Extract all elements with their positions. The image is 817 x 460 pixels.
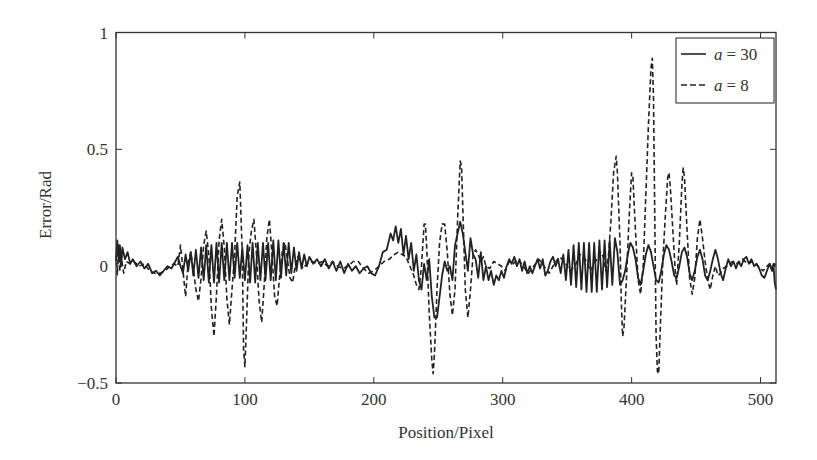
y-tick-label: −0.5 — [77, 374, 108, 393]
x-tick-label: 0 — [112, 390, 121, 409]
x-tick-label: 100 — [232, 390, 258, 409]
y-tick-label: 0 — [100, 257, 109, 276]
legend-item-a8: a= 8 — [714, 76, 749, 95]
x-tick-label: 400 — [619, 390, 645, 409]
y-axis-label: Error/Rad — [36, 171, 55, 239]
legend-box — [676, 38, 774, 103]
y-tick-label: 0.5 — [87, 140, 108, 159]
x-axis-label: Position/Pixel — [398, 423, 494, 442]
x-tick-label: 300 — [490, 390, 516, 409]
x-tick-label: 500 — [748, 390, 774, 409]
x-tick-label: 200 — [361, 390, 387, 409]
line-chart: 0100200300400500 −0.500.51 Position/Pixe… — [0, 0, 817, 460]
legend: a= 30 a= 8 — [676, 38, 774, 103]
y-tick-label: 1 — [100, 24, 109, 43]
legend-item-a30: a= 30 — [714, 45, 757, 64]
